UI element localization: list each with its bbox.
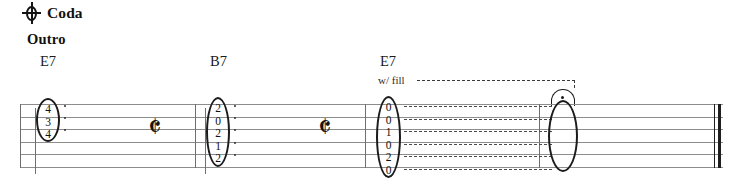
tie-string-5 [404, 156, 552, 157]
chord-label-1: E7 [40, 53, 56, 70]
chord-label-3: E7 [380, 53, 396, 70]
barline-start [20, 104, 21, 168]
barline-1 [195, 104, 196, 168]
tie-string-3 [404, 131, 552, 132]
held-whole-note-oval [548, 100, 578, 172]
staff-line-string-2 [20, 117, 723, 118]
tab-staff [20, 104, 723, 168]
tab-fret-number: 2 [208, 152, 228, 165]
final-barline-thick [718, 104, 721, 168]
tab-fret-number: 2 [208, 102, 228, 115]
coda-label: Coda [47, 4, 83, 22]
coda-icon [22, 2, 44, 24]
tab-fret-number: 0 [378, 101, 399, 114]
chord-voicing-e7-2: 0 0 1 0 2 0 [376, 96, 401, 178]
tie-string-1 [404, 106, 552, 107]
tab-fret-number: 3 [38, 116, 58, 129]
barline-3 [539, 104, 540, 168]
tab-fret-number: 1 [378, 126, 399, 139]
tab-fret-number: 0 [378, 114, 399, 127]
quarter-rest-2: 𝄵 [318, 112, 331, 142]
fill-bracket-line [417, 80, 575, 81]
tab-fret-number: 0 [378, 139, 399, 152]
tie-string-6 [404, 169, 552, 170]
staff-line-string-3 [20, 129, 723, 130]
tab-fret-number: 0 [378, 164, 399, 177]
barline-2 [365, 104, 366, 168]
tab-fret-number: 0 [208, 115, 228, 128]
staff-line-string-4 [20, 142, 723, 143]
guitar-tab-sheet: Coda Outro E7 B7 E7 w/ fill 4 3 4 [0, 0, 743, 196]
staff-line-string-6 [20, 167, 723, 168]
chord-voicing-e7-1: 4 3 4 [36, 98, 60, 142]
tab-fret-number: 4 [38, 103, 58, 116]
performance-note-w-fill: w/ fill [378, 74, 405, 86]
staff-line-string-1 [20, 104, 723, 105]
chord-voicing-b7: 2 0 2 1 2 [206, 97, 230, 167]
chord-label-2: B7 [210, 53, 227, 70]
staff-line-string-5 [20, 154, 723, 155]
tab-fret-number: 2 [208, 127, 228, 140]
tab-fret-number: 2 [378, 151, 399, 164]
quarter-rest-1: 𝄵 [148, 112, 161, 142]
tie-string-2 [404, 119, 552, 120]
section-label-outro: Outro [27, 31, 66, 48]
tab-fret-number: 1 [208, 140, 228, 153]
fill-bracket-end-hook [574, 80, 575, 88]
tab-fret-number: 4 [38, 128, 58, 141]
tie-string-4 [404, 144, 552, 145]
final-barline-thin [714, 104, 715, 168]
coda-marking: Coda [22, 2, 83, 24]
